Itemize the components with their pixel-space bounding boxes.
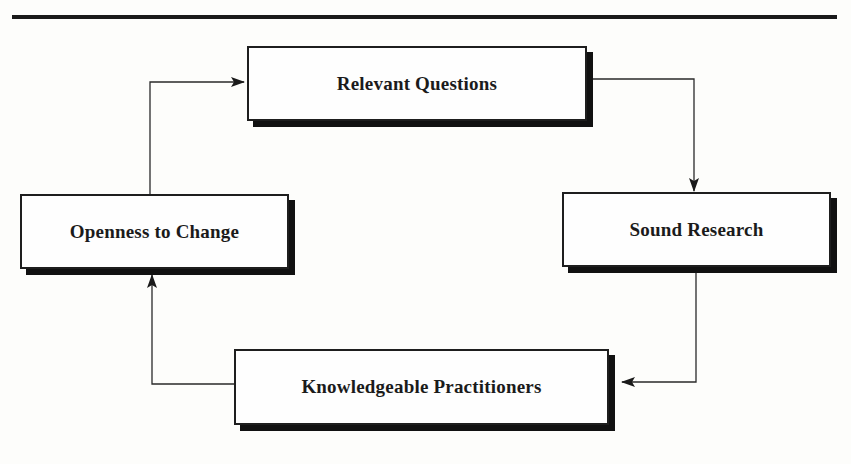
node-label: Sound Research (630, 219, 764, 241)
arrow-practitioners-to-openness (152, 275, 234, 384)
node-sound-research: Sound Research (562, 192, 831, 267)
node-knowledgeable-practitioners: Knowledgeable Practitioners (234, 349, 609, 425)
arrow-openness-to-questions (150, 82, 244, 194)
node-relevant-questions: Relevant Questions (247, 46, 587, 121)
node-label: Relevant Questions (337, 73, 497, 95)
node-label: Knowledgeable Practitioners (301, 376, 541, 398)
node-label: Openness to Change (70, 221, 239, 243)
arrow-questions-to-research (593, 79, 694, 191)
arrow-research-to-practitioners (622, 273, 696, 382)
node-openness-to-change: Openness to Change (20, 194, 289, 269)
